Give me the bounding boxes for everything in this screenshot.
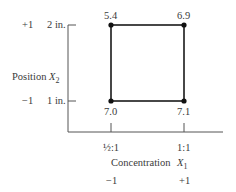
- y-tick-label-2in: 2 in.: [47, 19, 66, 31]
- design-square: [111, 25, 184, 101]
- x-axis-label: Concentration: [111, 157, 170, 168]
- value-bottom-right: 7.1: [177, 106, 190, 118]
- x-axis-subscript: 1: [184, 162, 188, 171]
- value-top-left: 5.4: [104, 10, 117, 22]
- y-axis-subscript: 2: [55, 76, 59, 85]
- x-tick-label-half: ½:1: [103, 142, 119, 154]
- value-bottom-left: 7.0: [104, 106, 117, 118]
- value-top-right: 6.9: [177, 10, 190, 22]
- y-coded-minus1: −1: [22, 95, 33, 107]
- x-tick-label-one: 1:1: [177, 142, 190, 154]
- y-axis-label: Position: [12, 71, 46, 82]
- x-axis-title: Concentration X1: [111, 157, 188, 173]
- x-coded-plus1: +1: [179, 175, 190, 187]
- y-axis-title: Position X2: [12, 71, 59, 87]
- point-top-right: [181, 22, 186, 27]
- y-tick-label-1in: 1 in.: [47, 95, 66, 107]
- point-bottom-left: [108, 98, 113, 103]
- x-coded-minus1: −1: [106, 175, 117, 187]
- point-bottom-right: [181, 98, 186, 103]
- y-coded-plus1: +1: [22, 19, 33, 31]
- point-top-left: [108, 22, 113, 27]
